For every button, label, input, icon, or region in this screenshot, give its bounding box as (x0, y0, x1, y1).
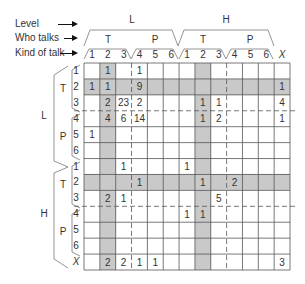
grid-lines (0, 0, 305, 284)
